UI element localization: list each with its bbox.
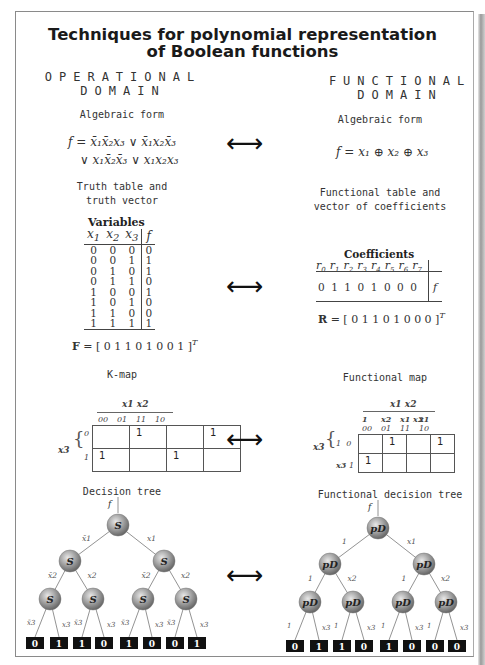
tree-edge-label: x2 — [348, 574, 357, 583]
tree-leaf-value: 0 — [172, 639, 178, 649]
tree-leaf-value: 0 — [32, 639, 38, 649]
map-col-header: 10 — [155, 415, 174, 424]
tree-edge-label: 1 — [334, 622, 338, 630]
truth-label-line1: Truth table and — [22, 180, 222, 194]
tree-node-label: S — [114, 520, 121, 531]
operational-heading-line1: OPERATIONAL — [38, 70, 208, 84]
fmap-row-brace: { — [325, 428, 336, 449]
tree-node-label: S — [89, 594, 96, 605]
map-cell: 1 — [431, 435, 455, 454]
tree-leaf-value: 1 — [386, 642, 392, 652]
tree-edge-label: x3 — [322, 624, 331, 632]
kmap-col-brace — [97, 412, 173, 413]
tree-edge-label: x3 — [367, 624, 376, 632]
truth-header-x3: x3 — [122, 229, 142, 244]
truth-table-cell: 1 — [103, 318, 122, 329]
tree-leaf-value: 1 — [339, 642, 345, 652]
fmap-col-codes: 00011110 — [362, 424, 438, 433]
tree-node-label: S — [66, 556, 73, 567]
map-col-header: x1 — [419, 414, 438, 424]
coef-table-values: 01101000 — [318, 281, 423, 293]
tree-edge-label: x̄2 — [48, 571, 57, 580]
functional-decision-tree: f1x11x21x21x31x31x31x3pDpDpDpDpDpDpD0110… — [260, 498, 485, 663]
map-cell: 1 — [93, 449, 130, 472]
tree-edge-label: 1 — [381, 622, 385, 630]
tree-root-label: f — [107, 499, 113, 509]
map-col-header: x1 x2 — [400, 414, 419, 424]
tree-edge-label: 1 — [402, 574, 407, 583]
tree-edge-label: 1 — [427, 622, 431, 630]
functional-algebraic-expr: f = x₁ ⊕ x₂ ⊕ x₃ — [336, 145, 428, 159]
truth-table-row: 1111 — [84, 318, 155, 329]
equivalence-arrow-map: ⟷ — [226, 426, 263, 452]
tree-node-label: S — [182, 594, 189, 605]
map-row: 11 — [93, 426, 241, 449]
title-line-2: of Boolean functions — [0, 43, 485, 60]
operational-algebraic-line2: ∨ x₁x̄₂x̄₃ ∨ x₁x₂x₃ — [80, 153, 178, 167]
map-col-header: 11 — [136, 415, 155, 424]
fmap-row-code-1: 1 — [349, 461, 354, 470]
diagram-title: Techniques for polynomial representation… — [0, 26, 485, 60]
tree-node-label: pD — [416, 559, 432, 570]
tree-node-label: S — [139, 594, 146, 605]
map-cell — [431, 454, 455, 473]
tree-edge-label: x3 — [200, 621, 209, 629]
tree-node-label: pD — [302, 597, 318, 608]
kmap-row-brace: { — [73, 428, 84, 449]
operational-domain-heading: OPERATIONAL DOMAIN — [38, 70, 208, 98]
kmap-row-code-1: 1 — [84, 453, 89, 462]
tree-edge-label: x3 — [460, 624, 469, 632]
tree-leaf-value: 1 — [79, 639, 85, 649]
map-cell — [383, 454, 407, 473]
truth-table-cell: 1 — [142, 318, 155, 329]
tree-edge-label: x̄2 — [142, 571, 151, 580]
fmap-row-code-0: 0 — [346, 439, 351, 448]
map-cell: 1 — [359, 454, 383, 473]
functional-map-label: Functional map — [290, 371, 480, 385]
tree-leaf-value: 0 — [292, 642, 298, 652]
tree-leaf-value: 0 — [101, 639, 107, 649]
functional-heading-line2: DOMAIN — [320, 88, 480, 102]
fmap-grid: 111 — [358, 434, 455, 473]
coef-vector-transpose: T — [439, 311, 444, 320]
truth-vector-transpose: T — [192, 338, 197, 347]
tree-leaf-value: 0 — [454, 642, 460, 652]
map-row: 11 — [93, 449, 241, 472]
functional-table-label-line2: vector of coefficients — [280, 200, 480, 214]
tree-node-label: pD — [370, 523, 386, 534]
coef-table-top-rule — [316, 271, 442, 272]
map-cell — [93, 426, 130, 449]
map-col-header: 00 — [362, 424, 381, 433]
functional-table-label: Functional table and vector of coefficie… — [280, 186, 480, 214]
fmap-col-var: x1 x2 — [390, 399, 416, 409]
tree-node-label: pD — [395, 597, 411, 608]
tree-edge-label: x1 — [407, 537, 416, 546]
tree-edge-label: 1 — [342, 537, 347, 546]
fmap-row-term-0: 1 0 — [336, 439, 351, 448]
equivalence-arrow-tree: ⟷ — [226, 562, 263, 588]
map-col-header: 01 — [117, 415, 136, 424]
truth-table-body: 00000011010101101001101011001111 — [84, 244, 155, 329]
fmap-row-term-0-text: 1 — [336, 439, 341, 448]
tree-node-label: S — [46, 594, 53, 605]
truth-header-f: f — [142, 229, 155, 244]
truth-header-x2: x2 — [103, 229, 122, 244]
map-col-header: 00 — [98, 415, 117, 424]
truth-label-line2: truth vector — [22, 194, 222, 208]
tree-edge-label: x1 — [147, 534, 156, 543]
coef-row-label: f — [433, 281, 437, 294]
functional-heading-line1: FUNCTIONAL — [320, 74, 480, 88]
truth-table-cell: 1 — [122, 318, 142, 329]
title-line-1: Techniques for polynomial representation — [0, 26, 485, 43]
map-cell: 1 — [383, 435, 407, 454]
tree-root-label: f — [367, 502, 373, 512]
map-col-header: 11 — [400, 424, 419, 433]
tree-leaf-value: 0 — [409, 642, 415, 652]
operational-algebraic-line1: f = x̄₁x̄₂x₃ ∨ x̄₁x₂x̄₃ — [68, 135, 176, 149]
tree-leaf-value: 1 — [316, 642, 322, 652]
fmap-col-terms: 1x2x1 x2x1 — [362, 414, 438, 424]
map-cell — [359, 435, 383, 454]
coef-vector-value: = [ 0 1 1 0 1 0 0 0 ] — [331, 313, 440, 326]
functional-algebraic-label: Algebraic form — [280, 113, 480, 127]
kmap-row-var: x3 — [58, 445, 70, 455]
